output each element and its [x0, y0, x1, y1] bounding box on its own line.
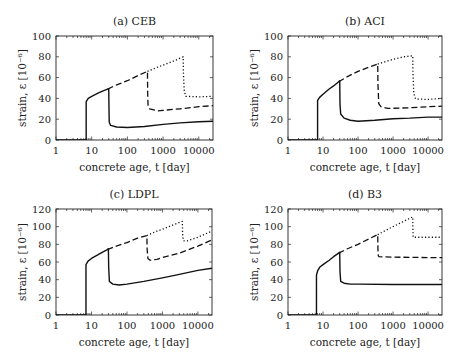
series-dotted-line: [378, 217, 442, 237]
x-tick-label: 10000: [412, 320, 444, 331]
y-tick-label: 0: [277, 310, 283, 321]
x-tick-label: 1000: [380, 145, 405, 156]
panel-title: (d) B3: [348, 188, 382, 201]
y-tick-label: 20: [270, 292, 283, 303]
series-solid-line: [56, 249, 212, 315]
x-tick-label: 10000: [182, 320, 214, 331]
y-tick-label: 80: [38, 239, 51, 250]
y-tick-label: 100: [264, 221, 283, 232]
x-tick-label: 10: [317, 145, 330, 156]
series-dotted-line: [147, 221, 212, 240]
y-tick-label: 40: [270, 274, 283, 285]
panel-b: (b) ACI020406080100110100100010000concre…: [248, 15, 444, 173]
figure-2x2-strain-plots: (a) CEB020406080100110100100010000concre…: [0, 0, 463, 362]
y-tick-label: 0: [277, 135, 283, 146]
y-tick-label: 0: [45, 135, 51, 146]
x-tick-label: 10: [85, 320, 98, 331]
y-tick-label: 20: [38, 114, 51, 125]
y-tick-label: 60: [38, 257, 51, 268]
plot-frame: [288, 36, 442, 140]
panel-d: (d) B3020406080100120110100100010000conc…: [248, 188, 444, 348]
x-tick-label: 100: [348, 320, 367, 331]
x-tick-label: 1: [285, 145, 291, 156]
panel-title: (a) CEB: [113, 15, 156, 28]
x-axis-label: concrete age, t [day]: [79, 336, 189, 348]
y-tick-label: 40: [38, 274, 51, 285]
x-tick-label: 1000: [380, 320, 405, 331]
x-tick-label: 10000: [183, 145, 215, 156]
x-tick-label: 100: [348, 145, 367, 156]
y-tick-label: 20: [38, 292, 51, 303]
x-tick-label: 1000: [150, 320, 175, 331]
y-axis-label: strain, ε [10⁻⁶]: [16, 223, 28, 301]
series-dashed-line: [108, 71, 213, 111]
series-dotted-line: [147, 57, 213, 97]
y-axis-label: strain, ε [10⁻⁶]: [16, 49, 28, 127]
y-tick-label: 20: [270, 114, 283, 125]
x-tick-label: 1: [53, 145, 59, 156]
y-tick-label: 60: [38, 72, 51, 83]
y-tick-label: 40: [270, 93, 283, 104]
panel-title: (b) ACI: [345, 15, 385, 28]
y-axis-label: strain, ε [10⁻⁶]: [248, 223, 260, 301]
plot-frame: [288, 209, 442, 315]
y-tick-label: 60: [270, 72, 283, 83]
plot-frame: [56, 209, 212, 315]
y-tick-label: 80: [270, 239, 283, 250]
series-dashed-line: [339, 64, 442, 108]
x-tick-label: 1: [53, 320, 59, 331]
y-tick-label: 100: [264, 31, 283, 42]
y-tick-label: 40: [38, 93, 51, 104]
y-tick-label: 100: [32, 31, 51, 42]
series-dashed-line: [107, 236, 212, 261]
y-tick-label: 120: [32, 204, 51, 215]
y-tick-label: 60: [270, 257, 283, 268]
y-tick-label: 0: [45, 310, 51, 321]
series-solid-line: [288, 252, 442, 315]
x-tick-label: 10000: [412, 145, 444, 156]
panel-a: (a) CEB020406080100110100100010000concre…: [16, 15, 215, 173]
panel-c: (c) LDPL020406080100120110100100010000co…: [16, 188, 214, 348]
y-axis-label: strain, ε [10⁻⁶]: [248, 49, 260, 127]
y-tick-label: 100: [32, 221, 51, 232]
x-tick-label: 100: [118, 145, 137, 156]
x-tick-label: 1000: [150, 145, 175, 156]
y-tick-label: 80: [270, 51, 283, 62]
y-tick-label: 120: [264, 204, 283, 215]
plot-frame: [56, 36, 213, 140]
x-axis-label: concrete age, t [day]: [310, 336, 420, 348]
x-axis-label: concrete age, t [day]: [310, 161, 420, 173]
x-tick-label: 10: [85, 145, 98, 156]
x-axis-label: concrete age, t [day]: [79, 161, 189, 173]
y-tick-label: 80: [38, 51, 51, 62]
series-solid-line: [288, 81, 442, 140]
chart-canvas: (a) CEB020406080100110100100010000concre…: [0, 0, 463, 362]
series-dotted-line: [378, 56, 442, 100]
x-tick-label: 100: [117, 320, 136, 331]
x-tick-label: 1: [285, 320, 291, 331]
x-tick-label: 10: [317, 320, 330, 331]
panel-title: (c) LDPL: [109, 188, 159, 201]
series-dashed-line: [339, 235, 442, 258]
